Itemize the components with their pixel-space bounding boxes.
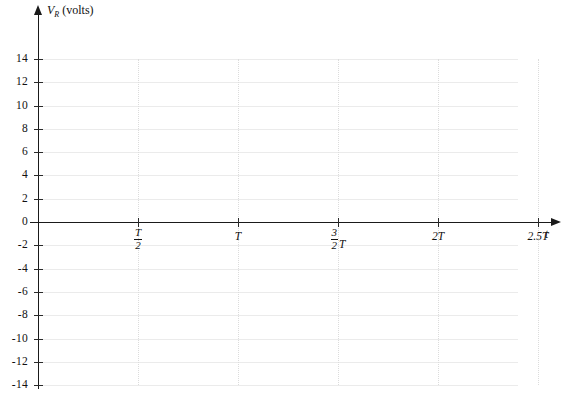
y-tick-label: -2 [0,238,28,250]
y-tick-mark [34,339,43,340]
y-tick-label: 8 [0,122,28,134]
y-axis-arrow-icon [34,5,42,15]
y-axis-title-subscript: R [54,10,59,19]
y-tick-label: 12 [0,75,28,87]
y-tick-label: -6 [0,285,28,297]
gridline-horizontal [38,315,518,316]
y-tick-mark [34,152,43,153]
y-axis-title: VR (volts) [47,3,94,19]
y-tick-mark [34,269,43,270]
gridline-horizontal [38,385,518,386]
gridline-horizontal [38,339,518,340]
x-axis-arrow-icon [551,218,561,226]
y-tick-label: 2 [0,192,28,204]
x-tick-mark [538,218,539,227]
y-tick-label: 6 [0,145,28,157]
y-tick-label: -12 [0,355,28,367]
y-tick-mark [34,385,43,386]
x-tick-mark [338,218,339,227]
x-tick-label: 32T [316,228,360,252]
x-tick-fraction: T2 [134,227,142,251]
y-tick-label: -8 [0,308,28,320]
y-axis-line [38,14,39,389]
y-tick-mark [34,315,43,316]
y-tick-mark [34,292,43,293]
y-axis-title-unit: (volts) [62,3,93,17]
y-tick-label: -4 [0,262,28,274]
gridline-horizontal [38,129,518,130]
y-tick-mark [34,129,43,130]
y-tick-label: 0 [0,215,28,227]
gridline-horizontal [38,106,518,107]
y-tick-label: 4 [0,168,28,180]
y-tick-mark [34,82,43,83]
x-tick-mark [238,218,239,227]
x-tick-label: T [216,230,260,242]
gridline-horizontal [38,175,518,176]
gridline-horizontal [38,152,518,153]
y-tick-label: 10 [0,99,28,111]
x-tick-mark [438,218,439,227]
y-tick-label: 14 [0,52,28,64]
gridline-horizontal [38,292,518,293]
x-tick-label: 2.5T [516,230,560,242]
y-tick-mark [34,245,43,246]
y-tick-mark [34,199,43,200]
x-tick-fraction: 32 [331,227,339,251]
y-tick-mark [34,175,43,176]
y-tick-mark [34,59,43,60]
x-tick-label: T2 [116,228,160,252]
x-tick-label: 2T [416,230,460,242]
gridline-horizontal [38,82,518,83]
y-tick-label: -14 [0,378,28,390]
gridline-horizontal [38,269,518,270]
x-tick-fraction-suffix: T [338,238,345,250]
gridline-horizontal [38,199,518,200]
x-axis-line [30,222,552,223]
y-tick-mark [34,106,43,107]
y-tick-mark [34,362,43,363]
gridline-horizontal [38,362,518,363]
gridline-horizontal [38,245,518,246]
graph-figure: VR (volts) t 14121086420-2-4-6-8-10-12-1… [0,0,564,413]
y-tick-label: -10 [0,332,28,344]
gridline-horizontal [38,59,518,60]
